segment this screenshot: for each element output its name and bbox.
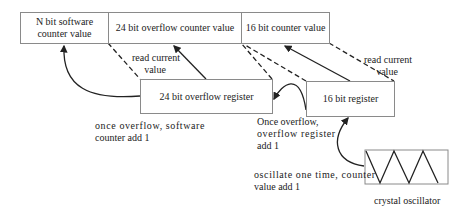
overflow-register-label: 24 bit overflow register: [159, 91, 253, 103]
oscillator-wave-icon: [366, 151, 438, 183]
software-add-note: once overflow, software counter add 1: [95, 120, 205, 144]
read-current-left: read current value: [132, 52, 178, 76]
read-current-right: read current value: [364, 54, 410, 78]
dashed-read-line-mid-2: [245, 45, 306, 81]
overflow-counter-box: 24 bit overflow counter value: [108, 12, 242, 44]
oscillate-add-note: oscillate one time, counter value add 1: [254, 169, 376, 193]
dashed-read-line-mid-1: [241, 43, 272, 79]
arrow-16bit-register-to-value: [285, 46, 350, 81]
software-counter-box: N bit software counter value: [20, 12, 109, 44]
overflow-add-note: Once overflow, overflow register add 1: [257, 116, 336, 152]
counter-register-box: 16 bit register: [306, 81, 395, 117]
curve-16bit-to-overflow: [274, 84, 306, 110]
crystal-oscillator-caption: crystal oscillator: [374, 195, 440, 207]
curve-oscillator-to-16bit: [337, 118, 364, 166]
overflow-counter-label: 24 bit overflow counter value: [116, 22, 234, 34]
counter-register-label: 16 bit register: [323, 93, 379, 105]
software-counter-label: N bit software counter value: [21, 16, 108, 40]
counter-value-box: 16 bit counter value: [241, 12, 330, 44]
counter-value-label: 16 bit counter value: [246, 22, 326, 34]
overflow-register-box: 24 bit overflow register: [140, 79, 273, 114]
curve-overflow-to-software: [64, 46, 140, 97]
